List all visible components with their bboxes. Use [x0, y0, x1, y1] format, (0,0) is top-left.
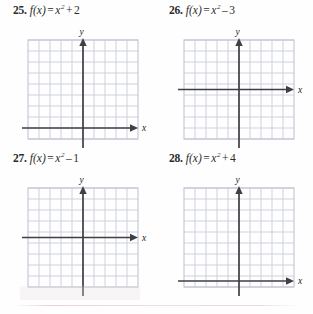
problem-26-operator: –: [220, 4, 229, 16]
y-axis-label: y: [79, 27, 85, 37]
problem-25-base: x: [55, 4, 60, 16]
y-axis-label: y: [235, 175, 241, 185]
x-axis-arrow: [130, 124, 138, 132]
problem-28-operator: +: [220, 152, 230, 164]
problem-28: 28.f(x)=x2+4: [156, 148, 312, 305]
x-axis-label: x: [297, 276, 303, 286]
problem-25-equals: =: [46, 4, 56, 16]
y-axis-arrow: [235, 38, 242, 46]
problem-27: 27.f(x)=x2–1: [0, 148, 156, 305]
problem-25-label: 25.f(x)=x2+2: [13, 3, 80, 17]
problem-28-label: 28.f(x)=x2+4: [169, 151, 236, 165]
problem-25-number: 25.: [13, 4, 27, 16]
problem-28-constant: 4: [230, 152, 236, 164]
problem-27-label: 27.f(x)=x2–1: [13, 151, 79, 165]
y-axis-label: y: [79, 175, 85, 185]
x-axis-arrow: [130, 234, 138, 242]
problem-26-base: x: [211, 4, 216, 16]
problem-26-constant: 3: [229, 4, 235, 16]
page-background: 25.f(x)=x2+2: [0, 0, 313, 314]
problem-27-graph-svg: x y: [22, 174, 144, 296]
y-axis-arrow: [235, 186, 242, 194]
problem-27-constant: 1: [73, 152, 79, 164]
problem-25: 25.f(x)=x2+2: [0, 0, 156, 157]
x-axis-label: x: [141, 123, 147, 133]
problem-26-number: 26.: [169, 4, 183, 16]
exercise-grid: 25.f(x)=x2+2: [0, 0, 313, 314]
problem-25-operator: +: [64, 4, 74, 16]
x-axis-arrow: [286, 277, 294, 285]
problem-26-graph-svg: x y: [178, 26, 300, 148]
y-axis-arrow: [79, 186, 86, 194]
problem-28-graph-svg: x y: [178, 174, 300, 296]
problem-27-number: 27.: [13, 152, 27, 164]
problem-25-constant: 2: [74, 4, 80, 16]
problem-27-base: x: [55, 152, 60, 164]
problem-28-number: 28.: [169, 152, 183, 164]
problem-28-graph[interactable]: x y: [178, 174, 300, 296]
x-axis-label: x: [141, 233, 147, 243]
x-axis-label: x: [297, 85, 303, 95]
problem-27-graph[interactable]: x y: [22, 174, 144, 296]
problem-27-equals: =: [46, 152, 56, 164]
problem-26-graph[interactable]: x y: [178, 26, 300, 148]
y-axis-label: y: [235, 27, 241, 37]
scan-artifact-line: [14, 305, 300, 306]
problem-26-equals: =: [202, 4, 212, 16]
problem-28-equals: =: [202, 152, 212, 164]
problem-28-base: x: [211, 152, 216, 164]
y-axis-arrow: [79, 38, 86, 46]
scan-artifact-tint: [20, 286, 140, 300]
problem-26: 26.f(x)=x2–3: [156, 0, 312, 157]
problem-27-operator: –: [64, 152, 73, 164]
x-axis-arrow: [286, 86, 294, 94]
problem-26-label: 26.f(x)=x2–3: [169, 3, 235, 17]
problem-25-graph-svg: x y: [22, 26, 144, 148]
problem-25-graph[interactable]: x y: [22, 26, 144, 148]
